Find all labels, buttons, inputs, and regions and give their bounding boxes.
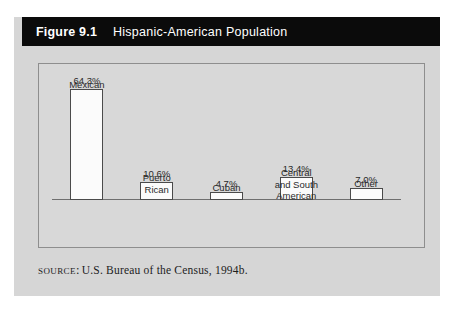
bar-group: 13.4%Centraland SouthAmerican [280, 164, 313, 200]
bar-category-label: Other [354, 178, 378, 190]
figure-number: Figure 9.1 [36, 25, 97, 39]
bar-rect [70, 89, 103, 200]
source-note: Source:U.S. Bureau of the Census, 1994b. [38, 263, 248, 278]
figure-page: Figure 9.1 Hispanic-American Population … [0, 0, 464, 316]
figure-card: Figure 9.1 Hispanic-American Population … [14, 17, 440, 296]
bar-category-label: Cuban [213, 182, 241, 194]
bar-group: 64.3%Mexican [70, 76, 103, 200]
figure-header-bar: Figure 9.1 Hispanic-American Population [22, 17, 440, 46]
chart-plot-area: 64.3%Mexican10.6%PuertoRican4.7%Cuban13.… [39, 64, 424, 247]
source-text: U.S. Bureau of the Census, 1994b. [82, 264, 248, 276]
bar-group: 4.7%Cuban [210, 179, 243, 200]
chart-frame: 64.3%Mexican10.6%PuertoRican4.7%Cuban13.… [38, 63, 425, 248]
bar-group: 10.6%PuertoRican [140, 169, 173, 200]
bar-category-label: PuertoRican [143, 172, 171, 195]
figure-title: Hispanic-American Population [113, 25, 287, 39]
source-label: Source: [38, 263, 80, 277]
bar-category-label: Centraland SouthAmerican [275, 167, 318, 202]
bar-category-label: Mexican [69, 79, 104, 91]
bar-group: 7.0%Other [350, 175, 383, 200]
